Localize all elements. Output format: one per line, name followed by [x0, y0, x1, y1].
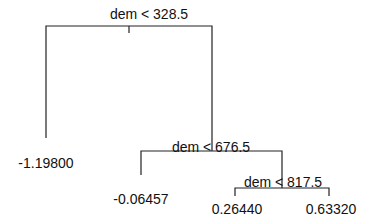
root-branch: [46, 26, 212, 151]
leaf-value-3: 0.26440: [212, 201, 263, 217]
leaf-value-2: -0.06457: [113, 191, 168, 207]
split-label-node3: dem < 817.5: [244, 174, 322, 190]
leaf-value-4: 0.63320: [306, 201, 357, 217]
tree-edges: [0, 0, 377, 224]
split-label-root: dem < 328.5: [110, 6, 188, 22]
leaf-value-1: -1.19800: [18, 155, 73, 171]
split-label-node2: dem < 676.5: [172, 139, 250, 155]
